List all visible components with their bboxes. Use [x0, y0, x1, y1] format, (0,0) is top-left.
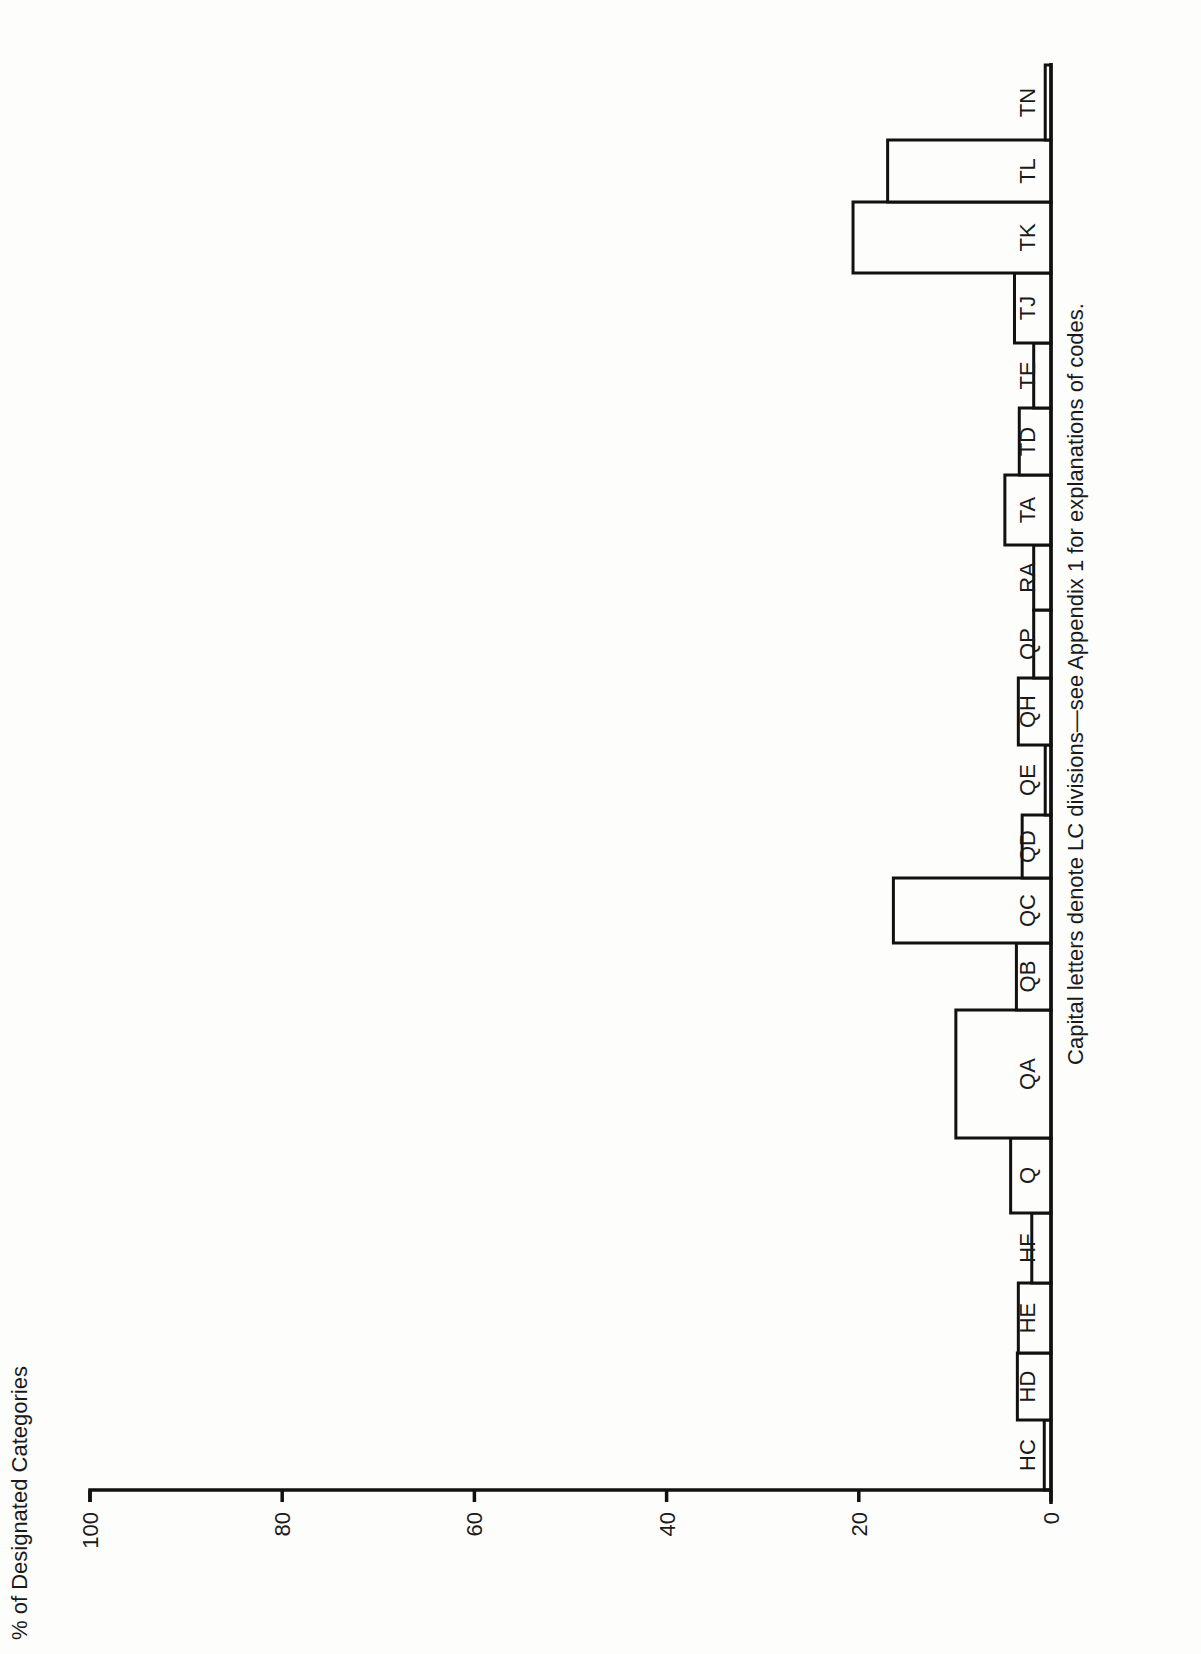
- category-label-tj: TJ: [1015, 296, 1040, 320]
- tick-label-40: 40: [655, 1512, 680, 1536]
- category-label-qp: QP: [1015, 628, 1040, 660]
- tick-label-20: 20: [847, 1512, 872, 1536]
- category-label-he: HE: [1015, 1303, 1040, 1334]
- category-label-ta: TA: [1015, 496, 1040, 523]
- category-label-qb: QB: [1015, 961, 1040, 993]
- category-label-q: Q: [1015, 1167, 1040, 1184]
- category-label-qe: QE: [1015, 764, 1040, 796]
- tick-label-100: 100: [78, 1512, 103, 1549]
- category-label-tn: TN: [1015, 88, 1040, 117]
- tick-label-0: 0: [1039, 1512, 1064, 1524]
- y-axis-title: % of Designated Categories: [7, 1366, 32, 1640]
- category-label-qc: QC: [1015, 894, 1040, 927]
- category-label-qa: QA: [1015, 1058, 1040, 1090]
- category-label-tl: TL: [1015, 158, 1040, 184]
- category-label-qd: QD: [1015, 830, 1040, 863]
- x-axis-caption: Capital letters denote LC divisions—see …: [1063, 303, 1088, 1065]
- tick-label-80: 80: [270, 1512, 295, 1536]
- category-label-hd: HD: [1015, 1371, 1040, 1403]
- tick-label-60: 60: [462, 1512, 487, 1536]
- category-label-tk: TK: [1015, 223, 1040, 251]
- category-label-td: TD: [1015, 427, 1040, 456]
- value-axis: 020406080100: [78, 63, 1064, 1549]
- category-label-hf: HF: [1015, 1233, 1040, 1262]
- bar-chart: 020406080100 HCHDHEHFQQAQBQCQDQEQHQPRATA…: [0, 0, 1201, 1654]
- category-label-hc: HC: [1015, 1439, 1040, 1471]
- category-label-qh: QH: [1015, 695, 1040, 728]
- category-label-te: TE: [1015, 361, 1040, 389]
- category-label-ra: RA: [1015, 562, 1040, 593]
